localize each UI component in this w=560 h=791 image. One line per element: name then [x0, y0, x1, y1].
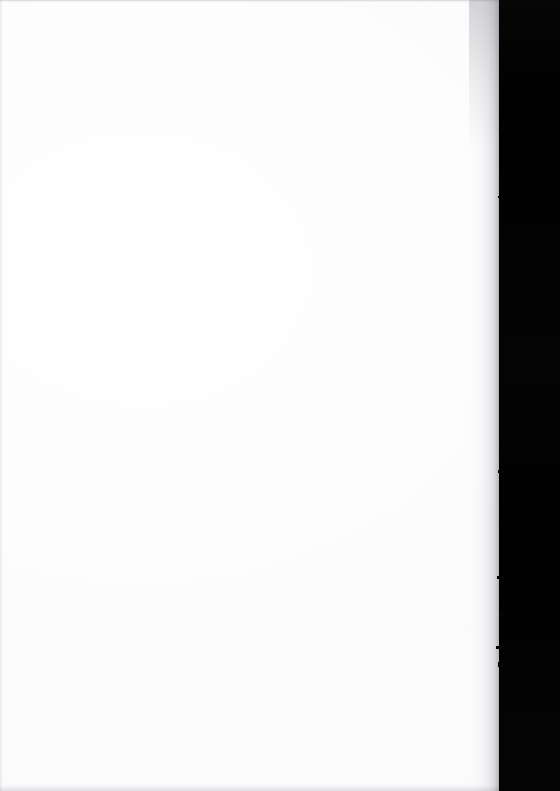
page-edge-right-shadow — [469, 0, 499, 791]
scanned-page-canvas — [0, 0, 560, 791]
document-page-sheet — [0, 0, 499, 791]
page-edge-bottom — [0, 782, 499, 791]
page-edge-left — [0, 0, 4, 791]
page-edge-top — [0, 0, 499, 3]
paper-grain-texture — [0, 0, 499, 791]
